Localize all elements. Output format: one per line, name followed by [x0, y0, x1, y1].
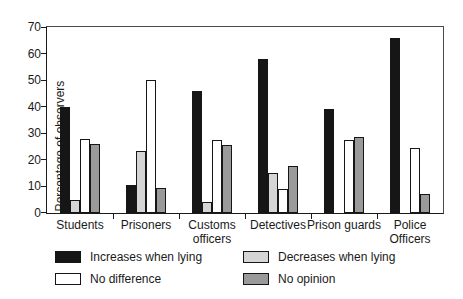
- bar-students-no-opinion: [90, 144, 100, 213]
- bar-prisoners-no-opinion: [156, 188, 166, 213]
- bar-students-increases-when-lying: [60, 107, 70, 213]
- bar-police-officers-increases-when-lying: [390, 38, 400, 213]
- bar-customs-officers-no-opinion: [222, 145, 232, 213]
- bar-prison-guards-no-opinion: [354, 137, 364, 213]
- legend-label: Decreases when lying: [278, 250, 395, 264]
- legend-swatch-decreases-when-lying: [243, 251, 269, 263]
- legend-swatch-no-opinion: [243, 273, 269, 285]
- bar-customs-officers-no-difference: [212, 140, 222, 213]
- y-axis-tick-label: 60: [13, 47, 41, 61]
- y-axis-tick: [41, 186, 46, 187]
- y-axis-tick: [41, 212, 46, 213]
- bar-detectives-increases-when-lying: [258, 59, 268, 213]
- bar-police-officers-no-opinion: [420, 194, 430, 213]
- bar-prisoners-decreases-when-lying: [136, 151, 146, 213]
- y-axis-tick: [41, 133, 46, 134]
- legend-label: No opinion: [278, 272, 335, 286]
- y-axis-tick: [41, 159, 46, 160]
- y-axis-tick-label: 30: [13, 126, 41, 140]
- bar-detectives-no-opinion: [288, 166, 298, 213]
- legend-item-no-opinion: No opinion: [243, 272, 395, 286]
- legend-label: Increases when lying: [90, 250, 202, 264]
- y-axis-tick: [41, 80, 46, 81]
- bar-customs-officers-increases-when-lying: [192, 91, 202, 213]
- x-category-label-police-officers: Police Officers: [364, 218, 456, 246]
- y-axis-tick-label: 10: [13, 179, 41, 193]
- y-axis-tick-label: 70: [13, 20, 41, 34]
- bar-prisoners-no-difference: [146, 80, 156, 213]
- bar-chart-figure: Percentage of observers 010203040506070S…: [0, 0, 463, 299]
- legend-item-no-difference: No difference: [55, 272, 243, 286]
- bar-students-decreases-when-lying: [70, 200, 80, 213]
- legend-item-decreases-when-lying: Decreases when lying: [243, 250, 395, 264]
- y-axis-tick-label: 40: [13, 100, 41, 114]
- legend-label: No difference: [90, 272, 161, 286]
- bar-prison-guards-no-difference: [344, 140, 354, 213]
- legend-item-increases-when-lying: Increases when lying: [55, 250, 243, 264]
- plot-area: Percentage of observers 010203040506070S…: [46, 26, 444, 214]
- legend-swatch-increases-when-lying: [55, 251, 81, 263]
- bar-detectives-no-difference: [278, 189, 288, 213]
- y-axis-tick: [41, 53, 46, 54]
- bar-customs-officers-decreases-when-lying: [202, 202, 212, 213]
- y-axis-tick: [41, 106, 46, 107]
- legend-swatch-no-difference: [55, 273, 81, 285]
- y-axis-tick-label: 20: [13, 153, 41, 167]
- bar-prison-guards-increases-when-lying: [324, 109, 334, 213]
- bar-detectives-decreases-when-lying: [268, 173, 278, 213]
- y-axis-tick-label: 50: [13, 73, 41, 87]
- bar-police-officers-no-difference: [410, 148, 420, 213]
- bar-prisoners-increases-when-lying: [126, 185, 136, 213]
- bar-students-no-difference: [80, 139, 90, 213]
- legend: Increases when lyingDecreases when lying…: [55, 250, 395, 286]
- y-axis-tick: [41, 27, 46, 28]
